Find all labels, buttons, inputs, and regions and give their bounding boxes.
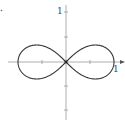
corner-dot — [1, 10, 3, 12]
lemniscate-plot — [0, 0, 125, 124]
origin-point — [65, 61, 68, 64]
x-tick-label-1: 1 — [113, 65, 119, 74]
y-tick-label-1: 1 — [57, 7, 63, 16]
x-axis-arrow-icon — [120, 60, 125, 64]
